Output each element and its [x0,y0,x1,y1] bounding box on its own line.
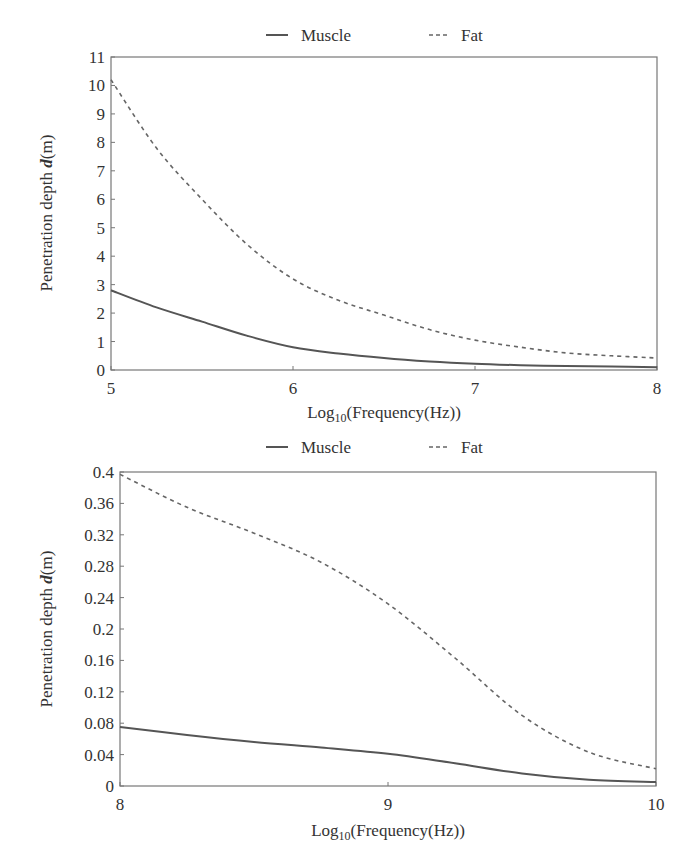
y-tick-label: 1 [97,333,106,352]
y-tick-label: 5 [97,219,106,238]
x-tick-label: 9 [384,795,393,814]
y-tick-label: 0.24 [84,589,114,608]
y-tick-label: 0.28 [84,557,114,576]
y-tick-label: 0 [97,361,106,380]
y-tick-label: 0.04 [84,746,114,765]
legend: Muscle Fat [266,26,483,45]
legend-muscle-label: Muscle [301,26,351,45]
top-chart: Muscle Fat 01234567891011 5678 Log10(Fre… [37,26,661,425]
bottom-chart: Muscle Fat 00.040.080.120.160.20.240.280… [37,438,665,843]
y-axis-label: Penetration depth d(m) [37,551,56,708]
x-tick-label: 7 [471,379,480,398]
y-tick-label: 0.2 [93,620,114,639]
legend-muscle-label: Muscle [301,438,351,457]
muscle-line [120,727,656,782]
y-tick-label: 6 [97,190,106,209]
y-tick-label: 0.36 [84,494,114,513]
x-axis-ticks: 8910 [116,782,665,814]
y-tick-label: 2 [97,304,106,323]
y-tick-label: 10 [88,76,105,95]
y-tick-label: 3 [97,276,106,295]
y-axis-label: Penetration depth d(m) [37,135,56,292]
x-axis-ticks: 5678 [107,366,662,398]
legend-fat-label: Fat [461,26,483,45]
x-tick-label: 8 [653,379,662,398]
y-tick-label: 0.4 [93,463,115,482]
plot-area [120,472,656,786]
y-tick-label: 0.08 [84,714,114,733]
figure: Muscle Fat 01234567891011 5678 Log10(Fre… [0,0,691,867]
y-tick-label: 0.32 [84,526,114,545]
x-tick-label: 8 [116,795,125,814]
y-tick-label: 7 [97,162,106,181]
plot-area [111,57,657,370]
x-tick-label: 6 [289,379,298,398]
muscle-line [111,290,657,367]
x-axis-label: Log10(Frequency(Hz)) [311,821,465,843]
x-tick-label: 10 [648,795,665,814]
x-axis-label: Log10(Frequency(Hz)) [307,403,461,425]
y-tick-label: 0.16 [84,651,114,670]
y-tick-label: 9 [97,105,106,124]
x-tick-label: 5 [107,379,116,398]
y-tick-label: 4 [97,247,106,266]
fat-line [111,80,657,358]
y-axis-ticks: 00.040.080.120.160.20.240.280.320.360.4 [84,463,124,796]
legend: Muscle Fat [266,438,483,457]
y-tick-label: 8 [97,133,106,152]
fat-line [120,474,656,768]
y-tick-label: 11 [89,48,105,67]
y-tick-label: 0 [106,777,115,796]
legend-fat-label: Fat [461,438,483,457]
y-tick-label: 0.12 [84,683,114,702]
